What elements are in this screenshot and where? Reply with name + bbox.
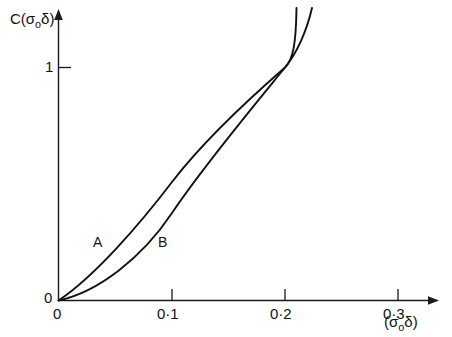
curve-a-path <box>59 8 297 301</box>
x-tick-label-0-2: 0·2 <box>270 306 292 321</box>
curve-label-a: A <box>93 235 102 249</box>
x-tick-label-0: 0 <box>53 306 61 321</box>
curve-label-b: B <box>158 235 167 249</box>
plot-canvas <box>0 0 452 337</box>
x-axis-label-tail: δ) <box>404 313 417 330</box>
curve-b-path <box>59 8 313 301</box>
y-tick-label-1: 1 <box>45 59 53 74</box>
chart-figure: C(σoδ) (σoδ) 1 0 0 0·1 0·2 0·3 A B <box>0 0 452 337</box>
y-axis-label-main: C(σ <box>10 10 35 27</box>
x-tick-label-0-1: 0·1 <box>157 306 179 321</box>
x-axis-arrow-icon <box>428 296 439 305</box>
y-axis-label-tail: δ) <box>41 10 54 27</box>
y-axis-arrow-icon <box>54 9 63 20</box>
x-tick-label-0-3: 0·3 <box>383 306 405 321</box>
y-tick-label-0: 0 <box>44 290 52 305</box>
y-axis-label: C(σoδ) <box>10 11 54 30</box>
